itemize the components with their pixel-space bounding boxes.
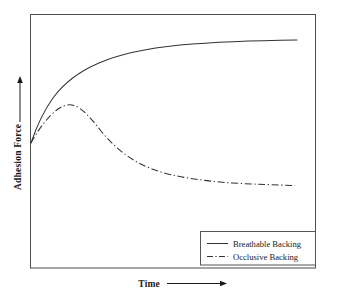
x-axis-arrow [167, 281, 227, 287]
y-axis-title: Adhesion Force [13, 124, 23, 190]
legend-label-occlusive-backing: Occlusive Backing [233, 252, 299, 262]
chart-canvas: Adhesion Force Time Breathable Backing O… [0, 0, 337, 298]
legend-label-breathable-backing: Breathable Backing [233, 239, 302, 249]
y-axis-arrow [17, 76, 23, 122]
plot-frame [31, 15, 316, 269]
x-axis-title: Time [138, 279, 160, 289]
chart-figure: Adhesion Force Time Breathable Backing O… [0, 0, 337, 298]
legend: Breathable Backing Occlusive Backing [201, 232, 316, 266]
